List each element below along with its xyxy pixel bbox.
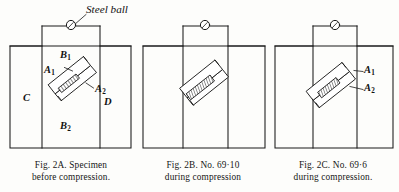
caption-2b: Fig. 2B. No. 69·10 during compression — [138, 159, 268, 184]
part-label-b1-base: B — [60, 49, 67, 60]
panel-2c-drawing — [275, 20, 393, 148]
part-label-c: C — [23, 92, 30, 105]
part-label-b2-base: B — [60, 120, 67, 131]
caption-2c-line1: Fig. 2C. No. 69·6 — [268, 159, 398, 171]
part-label-c-base: C — [23, 92, 30, 103]
part-label-c-a1: A1 — [364, 64, 375, 77]
panel-2b-drawing — [143, 20, 265, 148]
caption-2a-line1: Fig. 2A. Specimen — [4, 159, 138, 171]
caption-2c: Fig. 2C. No. 69·6 during compression. — [268, 159, 398, 184]
part-label-d: D — [104, 96, 112, 109]
caption-2b-line1: Fig. 2B. No. 69·10 — [138, 159, 268, 171]
steel-ball-label: Steel ball — [86, 3, 128, 15]
part-label-a1-sub: 1 — [51, 69, 55, 77]
part-label-b1-sub: 1 — [67, 54, 71, 62]
caption-2b-line2: during compression — [138, 171, 268, 183]
caption-2a: Fig. 2A. Specimen before compression. — [4, 159, 138, 184]
part-label-a1-base: A — [44, 64, 51, 75]
caption-2a-line2: before compression. — [4, 171, 138, 183]
figure-plate: Steel ball B1 A1 A2 C D B2 A1 A2 Fig. 2A… — [0, 0, 399, 192]
part-label-d-base: D — [104, 96, 112, 107]
part-label-b1: B1 — [60, 49, 71, 62]
part-label-c-a1-sub: 1 — [371, 69, 375, 77]
part-label-c-a2: A2 — [364, 82, 375, 95]
part-label-b2: B2 — [60, 120, 71, 133]
part-label-a2-base: A — [95, 83, 102, 94]
part-label-c-a2-base: A — [364, 82, 371, 93]
part-label-a2-sub: 2 — [102, 88, 106, 96]
part-label-a2: A2 — [95, 83, 106, 96]
part-label-c-a2-sub: 2 — [371, 87, 375, 95]
caption-2c-line2: during compression. — [268, 171, 398, 183]
part-label-c-a1-base: A — [364, 64, 371, 75]
part-label-a1: A1 — [44, 64, 55, 77]
part-label-b2-sub: 2 — [67, 125, 71, 133]
